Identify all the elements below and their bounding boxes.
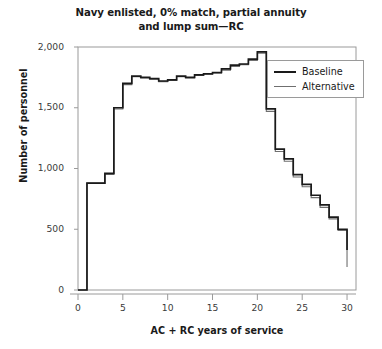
x-tick-label: 20 [237, 302, 277, 313]
chart-title-line-2: and lump sum—RC [0, 20, 382, 34]
legend-label: Alternative [302, 81, 355, 92]
y-tick-label: 1,000 [20, 162, 64, 173]
y-tick-label: 500 [20, 223, 64, 234]
x-tick-label: 10 [148, 302, 188, 313]
x-tick-label: 30 [327, 302, 367, 313]
x-tick-label: 15 [193, 302, 233, 313]
x-tick-label: 5 [103, 302, 143, 313]
legend-swatch-line-icon [274, 71, 296, 73]
legend-item-alternative[interactable]: Alternative [274, 81, 355, 92]
chart-figure: Navy enlisted, 0% match, partial annuity… [0, 0, 382, 349]
legend-swatch-line-icon [274, 86, 296, 87]
y-axis-label: Number of personnel [18, 41, 29, 211]
y-tick-label: 2,000 [20, 41, 64, 52]
legend-box: BaselineAlternative [267, 60, 364, 98]
chart-title: Navy enlisted, 0% match, partial annuity… [0, 6, 382, 33]
y-tick-label: 0 [20, 284, 64, 295]
legend-item-baseline[interactable]: Baseline [274, 66, 355, 77]
legend-label: Baseline [302, 66, 343, 77]
x-axis-label: AC + RC years of service [78, 325, 356, 336]
y-tick-label: 1,500 [20, 101, 64, 112]
chart-title-line-1: Navy enlisted, 0% match, partial annuity [0, 6, 382, 20]
x-tick-label: 25 [282, 302, 322, 313]
plot-area [0, 0, 382, 349]
x-tick-label: 0 [58, 302, 98, 313]
